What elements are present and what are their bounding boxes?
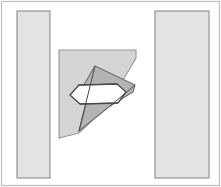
right-band — [155, 11, 209, 178]
technical-diagram — [0, 0, 221, 187]
hexagon-outline — [70, 84, 126, 104]
left-band — [17, 11, 50, 178]
figure-container — [0, 0, 221, 187]
